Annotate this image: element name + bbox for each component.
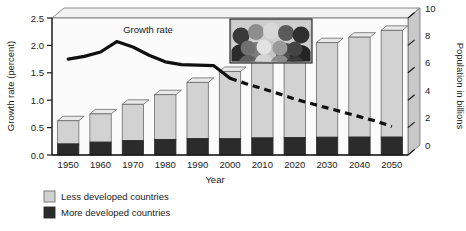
bar-segment-less-developed: [187, 82, 208, 138]
bar-segment-more-developed: [58, 144, 79, 155]
bar-segment-less-developed: [381, 30, 402, 137]
y2-tick-label: 10: [425, 3, 436, 14]
y-tick-label: 0.5: [31, 122, 44, 133]
legend-swatch-less-developed: [44, 191, 55, 202]
bar-segment-less-developed: [90, 114, 111, 142]
x-tick-label: 1960: [90, 159, 111, 170]
y-tick-label: 2.5: [31, 13, 44, 24]
y-axis-growth-rate: 0.00.51.01.52.02.5 Growth rate (percent): [5, 13, 52, 161]
y2-tick-label: 6: [425, 57, 430, 68]
x-tick-label: 1980: [155, 159, 176, 170]
bar-segment-less-developed: [219, 71, 240, 138]
y-tick-label: 1.0: [31, 95, 44, 106]
y-axis-ticks: 0.00.51.01.52.02.5: [31, 13, 52, 161]
x-tick-label: 2020: [284, 159, 305, 170]
bar-segment-less-developed: [284, 51, 305, 138]
legend-label-less-developed: Less developed countries: [61, 191, 169, 202]
y2-tick-label: 4: [425, 85, 430, 96]
bar-segment-more-developed: [187, 138, 208, 155]
bar-segment-more-developed: [122, 141, 143, 155]
y-tick-label: 1.5: [31, 67, 44, 78]
y2-tick-label: 0: [425, 140, 430, 151]
bar-segment-more-developed: [349, 137, 370, 155]
chart-figure: 0.00.51.01.52.02.5 Growth rate (percent)…: [0, 0, 466, 231]
chart-legend: Less developed countries More developed …: [44, 191, 171, 218]
legend-item-less-developed: Less developed countries: [44, 191, 169, 202]
bar-segment-more-developed: [219, 139, 240, 155]
y2-axis-title: Population in billions: [455, 43, 466, 130]
x-tick-label: 2040: [349, 159, 370, 170]
y-tick-label: 2.0: [31, 40, 44, 51]
bar-segment-more-developed: [316, 137, 337, 155]
x-tick-label: 1990: [187, 159, 208, 170]
legend-label-more-developed: More developed countries: [61, 207, 171, 218]
plot-top-face: [52, 8, 420, 18]
x-tick-label: 2000: [219, 159, 240, 170]
chart-svg: 0.00.51.01.52.02.5 Growth rate (percent)…: [0, 0, 466, 231]
bar-top-face: [122, 100, 149, 105]
growth-rate-annotation: Growth rate: [123, 24, 173, 35]
bar-segment-less-developed: [316, 43, 337, 138]
y-tick-label: 0.0: [31, 150, 44, 161]
bar-segment-more-developed: [381, 137, 402, 155]
bar-segment-more-developed: [90, 142, 111, 155]
bar-top-face: [219, 67, 246, 72]
x-axis-tick-labels: 1950196019701980199020002010202020302040…: [58, 159, 403, 170]
bar-top-face: [349, 33, 376, 38]
x-tick-label: 1950: [58, 159, 79, 170]
x-tick-label: 2010: [252, 159, 273, 170]
y2-tick-label: 2: [425, 112, 430, 123]
bar-top-face: [316, 38, 343, 43]
x-axis-year: 1950196019701980199020002010202020302040…: [52, 155, 408, 185]
x-axis-title: Year: [205, 174, 224, 185]
x-tick-label: 2030: [317, 159, 338, 170]
bar-segment-more-developed: [252, 138, 273, 155]
y2-tick-label: 8: [425, 30, 430, 41]
bar-top-face: [381, 26, 408, 31]
bar-top-face: [58, 116, 85, 121]
bar-segment-more-developed: [155, 139, 176, 155]
bar-segment-less-developed: [122, 104, 143, 140]
bar-segment-less-developed: [155, 95, 176, 140]
bar-segment-less-developed: [58, 121, 79, 144]
legend-item-more-developed: More developed countries: [44, 207, 171, 218]
x-tick-label: 2050: [381, 159, 402, 170]
bar-top-face: [187, 78, 214, 83]
x-tick-label: 1970: [122, 159, 143, 170]
legend-swatch-more-developed: [44, 207, 55, 218]
y-axis-title: Growth rate (percent): [5, 41, 16, 131]
plot-right-wall: [408, 8, 420, 155]
bar-segment-less-developed: [252, 60, 273, 137]
bar-top-face: [155, 90, 182, 95]
bar-segment-less-developed: [349, 37, 370, 137]
bar-top-face: [90, 109, 117, 114]
bar-segment-more-developed: [284, 137, 305, 155]
